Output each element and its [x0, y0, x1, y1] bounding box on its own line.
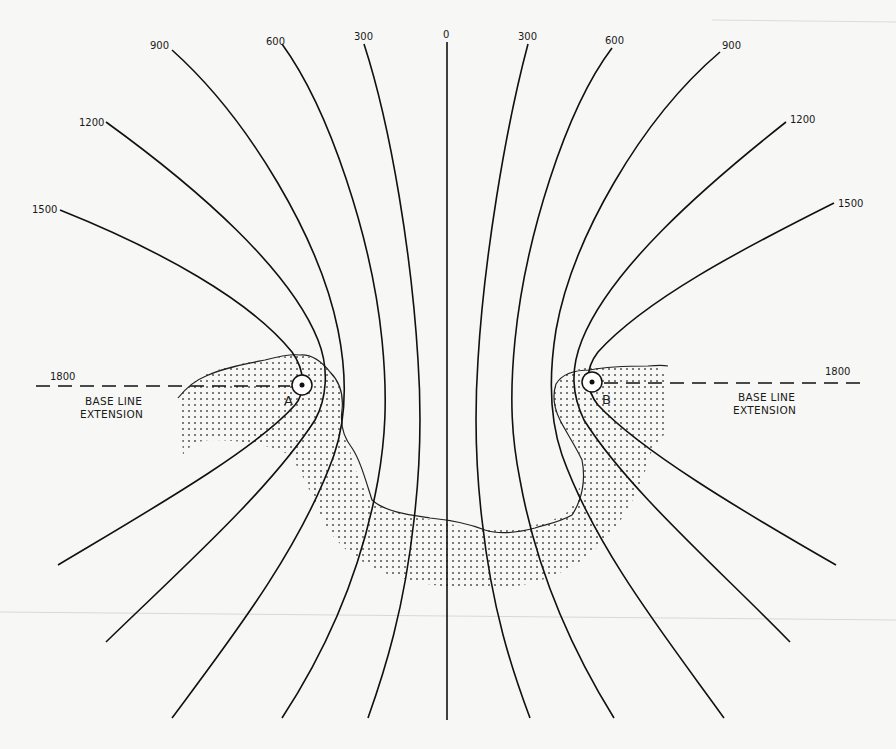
lop-label-600-right: 600: [605, 35, 624, 46]
lop-label-1200-right: 1200: [790, 114, 815, 125]
baseline-caption-right-2: EXTENSION: [733, 404, 796, 416]
baseline-value-right: 1800: [825, 366, 850, 377]
station-a: [292, 375, 312, 395]
station-b-label: B: [602, 392, 611, 407]
lop-label-1200-left: 1200: [79, 117, 104, 128]
baseline-caption-left-2: EXTENSION: [80, 408, 143, 420]
lop-label-0: 0: [443, 29, 449, 40]
station-a-label: A: [284, 393, 293, 408]
chart-canvas: A B 1500 1200 900 600 300 0 300 600 900 …: [0, 0, 896, 749]
station-b: [582, 372, 602, 392]
hyperbolic-chart: A B 1500 1200 900 600 300 0 300 600 900 …: [0, 0, 896, 749]
scan-artifact: [712, 20, 896, 22]
lop-label-300-right: 300: [518, 31, 537, 42]
lop-label-1500-right: 1500: [838, 198, 863, 209]
baseline-caption-left-1: BASE LINE: [85, 395, 142, 407]
lop-label-1500-left: 1500: [32, 204, 57, 215]
lop-label-900-right: 900: [722, 40, 741, 51]
lop-label-900-left: 900: [150, 40, 169, 51]
baseline-value-left: 1800: [50, 371, 75, 382]
baseline-caption-right-1: BASE LINE: [738, 391, 795, 403]
lop-label-600-left: 600: [266, 36, 285, 47]
lop-300-left: [364, 44, 420, 718]
lop-label-300-left: 300: [354, 31, 373, 42]
